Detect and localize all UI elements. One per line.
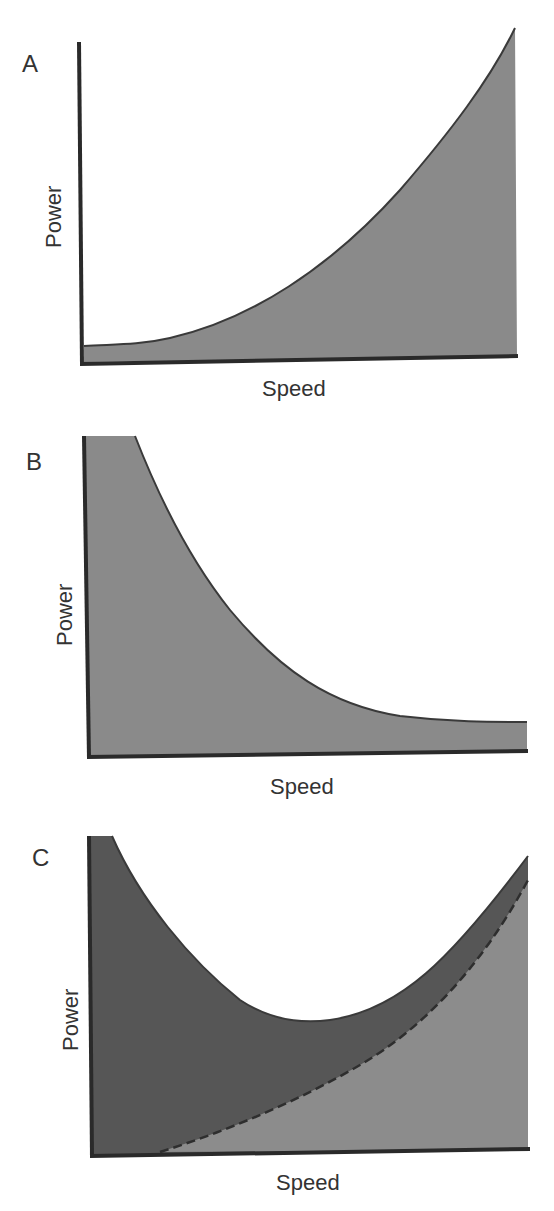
panel-b-area	[84, 436, 527, 756]
panel-a-ylabel: Power	[41, 186, 66, 248]
panel-a: A Power Speed	[22, 28, 518, 401]
panel-a-xlabel: Speed	[262, 376, 326, 401]
panel-b-ylabel: Power	[52, 584, 77, 646]
panel-b-xlabel: Speed	[270, 774, 334, 799]
panel-b: B Power Speed	[26, 436, 528, 799]
panel-a-letter: A	[22, 50, 38, 77]
panel-c-ylabel: Power	[58, 989, 83, 1051]
panel-a-area	[84, 28, 517, 362]
panel-c-xlabel: Speed	[276, 1170, 340, 1195]
panel-a-y-axis	[79, 42, 82, 365]
figure: A Power Speed B Power Speed C Power Spee…	[0, 0, 554, 1211]
panel-b-letter: B	[26, 448, 42, 475]
panel-c-letter: C	[32, 844, 49, 871]
panel-c: C Power Speed	[32, 836, 530, 1195]
